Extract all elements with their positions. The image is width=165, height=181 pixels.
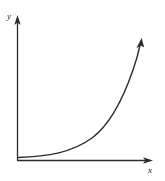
x-axis-label: x xyxy=(147,165,152,175)
y-axis-label: y xyxy=(6,11,11,21)
figure-background xyxy=(0,0,165,181)
graph-canvas: y x xyxy=(0,0,165,181)
exponential-graph-figure: y x xyxy=(0,0,165,181)
